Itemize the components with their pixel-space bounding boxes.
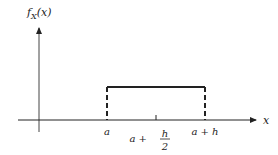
tick-label-midpoint-denominator: 2	[161, 141, 168, 152]
density-diagram: fX(x) x a a + h 2 a + h	[0, 0, 278, 155]
x-axis-label: x	[263, 114, 270, 127]
y-axis-label: fX(x)	[26, 6, 52, 21]
tick-label-a: a	[104, 126, 110, 137]
tick-label-midpoint-numerator: h	[162, 128, 168, 139]
tick-label-a-plus-h: a + h	[191, 126, 218, 137]
tick-label-midpoint-prefix: a +	[129, 133, 147, 144]
